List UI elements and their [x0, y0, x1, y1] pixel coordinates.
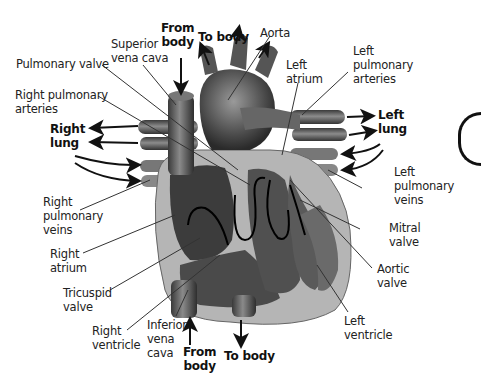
- label-right-pulmonary-veins: Right pulmonary veins: [43, 195, 103, 237]
- label-left-atrium: Left atrium: [286, 58, 323, 86]
- label-from-body-bottom: From body: [183, 345, 216, 373]
- label-aortic-valve: Aortic valve: [377, 262, 409, 290]
- label-right-atrium: Right atrium: [50, 247, 87, 275]
- label-right-ventricle: Right ventricle: [92, 324, 140, 352]
- label-inferior-vena-cava: Inferior vena cava: [147, 318, 187, 360]
- label-left-pulmonary-veins: Left pulmonary veins: [394, 165, 454, 207]
- label-right-lung: Right lung: [50, 122, 85, 150]
- label-pulmonary-valve: Pulmonary valve: [16, 57, 109, 71]
- label-right-pulmonary-arteries: Right pulmonary arteries: [15, 88, 108, 116]
- label-to-body-bottom: To body: [224, 349, 275, 363]
- label-mitral-valve: Mitral valve: [389, 221, 420, 249]
- label-tricuspid-valve: Tricuspid valve: [63, 286, 112, 314]
- label-left-pulmonary-arteries: Left pulmonary arteries: [353, 44, 413, 86]
- label-superior-vena-cava: Superior vena cava: [111, 37, 168, 65]
- label-left-lung: Left lung: [378, 108, 407, 136]
- label-aorta: Aorta: [260, 26, 290, 40]
- label-to-body-top: To body: [198, 30, 249, 44]
- label-left-ventricle: Left ventricle: [344, 314, 392, 342]
